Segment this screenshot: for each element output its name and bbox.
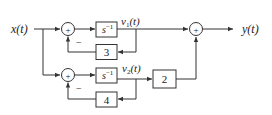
feedback-bottom-return	[68, 83, 96, 100]
integrator-top-block: s−1	[96, 22, 117, 37]
svg-text:3: 3	[104, 46, 110, 58]
feedback-top-return	[68, 37, 96, 53]
summer-2: + −	[62, 69, 83, 95]
input-label: x(t)	[10, 22, 28, 36]
block-diagram: x(t) + − s−1 v1(t) 3 + − s−1 v2(t) 2	[0, 0, 272, 115]
summer-3: +	[190, 23, 203, 36]
sum2-minus: −	[76, 83, 82, 94]
summer-1: + −	[62, 23, 83, 49]
feedback-top-wire	[118, 29, 136, 52]
feedback-top-block: 3	[96, 45, 117, 60]
gain-block: 2	[153, 70, 176, 88]
gain-out-wire	[176, 37, 196, 79]
sum1-plus: +	[65, 25, 70, 35]
integrator-top-exp: −1	[106, 23, 114, 31]
output-label: y(t)	[241, 22, 259, 36]
v2-label: v2(t)	[122, 62, 141, 76]
sum1-minus: −	[76, 37, 82, 48]
integrator-bottom-exp: −1	[106, 69, 114, 77]
integrator-bottom-block: s−1	[96, 68, 117, 83]
svg-text:4: 4	[104, 94, 110, 106]
feedback-bottom-wire	[118, 79, 136, 99]
branch-wire	[43, 29, 60, 75]
sum3-plus: +	[193, 25, 198, 35]
v1-label: v1(t)	[121, 15, 140, 29]
sum2-plus: +	[65, 71, 70, 81]
svg-text:2: 2	[162, 73, 168, 85]
feedback-bottom-block: 4	[96, 92, 117, 107]
